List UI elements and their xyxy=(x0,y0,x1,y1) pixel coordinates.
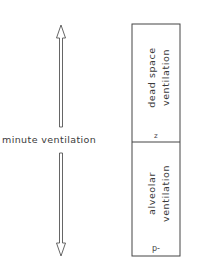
alveolar-line1: alveolar xyxy=(146,154,157,234)
lower-marker: p- xyxy=(152,244,160,253)
alveolar-line2: ventilation xyxy=(160,154,171,234)
dead-space-line2: ventilation xyxy=(160,38,171,118)
upper-marker: z xyxy=(154,132,158,140)
minute-ventilation-label: minute ventilation xyxy=(2,134,96,145)
dead-space-line1: dead space xyxy=(146,38,157,118)
up-arrow-icon xyxy=(57,25,66,127)
down-arrow-icon xyxy=(57,153,66,256)
